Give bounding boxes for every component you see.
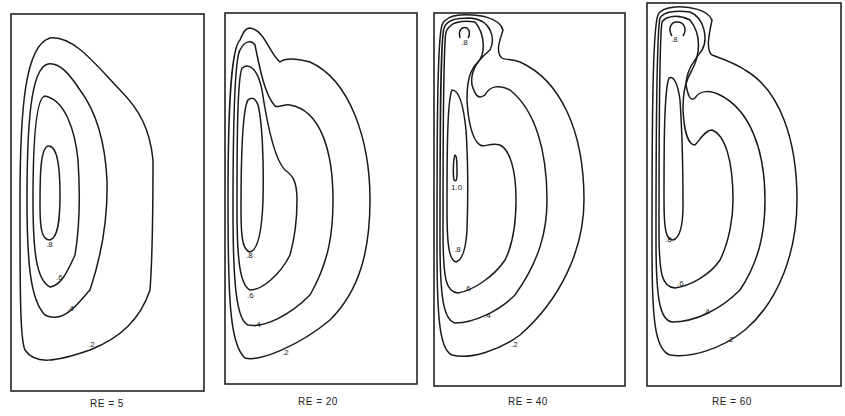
contour-1.0 <box>453 155 457 181</box>
contour-label: .2 <box>88 340 95 349</box>
panel-re-5: .8 .6 .4 .2 <box>11 14 204 391</box>
contour-label: .4 <box>67 304 74 313</box>
caption-re-20: RE = 20 <box>298 396 338 407</box>
contour-0.4 <box>440 18 547 323</box>
contour-0.8 <box>40 146 60 240</box>
caption-re-5: RE = 5 <box>90 398 124 409</box>
contour-0.4 <box>27 64 107 318</box>
contour-0.4 <box>233 42 333 326</box>
contour-label: .4 <box>254 320 261 329</box>
contour-0.4 <box>656 11 765 322</box>
contour-label: .6 <box>247 291 254 300</box>
contour-0.2 <box>228 28 370 359</box>
contour-label: .8 <box>665 235 672 244</box>
panel-re-40: .8 1.0 .8 .6 .4 .2 <box>434 13 625 386</box>
contour-label: .6 <box>677 279 684 288</box>
contour-label: .8 <box>246 251 253 260</box>
contour-label: .8 <box>454 245 461 254</box>
contour-label: .2 <box>282 348 289 357</box>
contour-label: 1.0 <box>451 183 463 192</box>
panel-frame <box>647 3 841 386</box>
caption-re-60: RE = 60 <box>712 396 752 407</box>
contour-0.8 <box>241 98 263 252</box>
contour-0.8-top <box>459 27 469 38</box>
contour-label: .6 <box>56 273 63 282</box>
contour-label: .8 <box>671 35 678 44</box>
contour-label: .2 <box>727 335 734 344</box>
contour-0.8 <box>664 77 683 240</box>
contour-label: .4 <box>703 307 710 316</box>
contour-label: .2 <box>511 340 518 349</box>
panel-re-60: .8 .8 .6 .4 .2 <box>647 3 841 386</box>
panel-frame <box>434 13 625 386</box>
contour-label: .6 <box>464 284 471 293</box>
contour-figure: .8 .6 .4 .2 .8 .6 .4 .2 .8 1.0 .8 .6 .4 … <box>0 0 845 416</box>
contour-label: .8 <box>461 38 468 47</box>
contour-0.8-top <box>670 22 685 36</box>
caption-re-40: RE = 40 <box>508 396 548 407</box>
contour-label: .4 <box>484 311 491 320</box>
panel-re-20: .8 .6 .4 .2 <box>225 13 417 384</box>
contour-label: .8 <box>46 240 53 249</box>
